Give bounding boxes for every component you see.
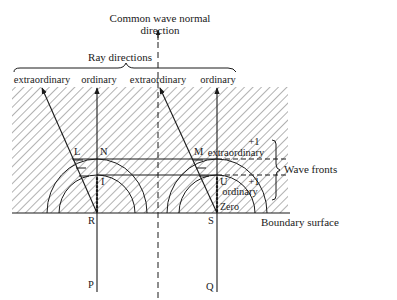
boundary-surface-label: Boundary surface — [261, 216, 339, 228]
wave-normal-title-line1: Common wave normal — [110, 12, 211, 24]
point-label-s: S — [208, 215, 214, 226]
ray-label-ordinary-left: ordinary — [81, 74, 117, 85]
point-label-m: M — [194, 146, 204, 157]
wave-front-upper-order: +1 — [248, 136, 259, 147]
ray-directions-label: Ray directions — [88, 51, 152, 63]
point-label-n: N — [100, 146, 108, 157]
ray-label-ordinary-right: ordinary — [200, 74, 236, 85]
point-label-q: Q — [206, 281, 214, 292]
point-label-l: L — [74, 146, 80, 157]
ray-label-extraordinary-left: extraordinary — [14, 74, 71, 85]
ray-label-extraordinary-right: extraordinary — [130, 74, 187, 85]
wave-fronts-label: Wave fronts — [284, 163, 337, 175]
point-label-i: I — [101, 176, 105, 187]
birefringence-diagram: Common wave normal direction Ray directi… — [0, 0, 397, 300]
point-label-r: R — [88, 215, 95, 226]
wave-normal-title-line2: direction — [140, 24, 180, 36]
ray-directions-brace — [14, 63, 236, 72]
point-label-p: P — [88, 279, 94, 290]
wave-front-lower-type: ordinary — [222, 186, 258, 197]
wave-front-upper-type: extraordinary — [208, 147, 265, 158]
zero-label: Zero — [220, 201, 239, 212]
